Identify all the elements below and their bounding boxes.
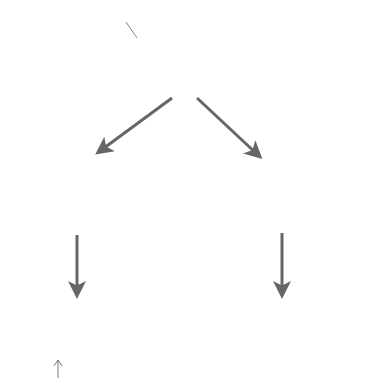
replication-arrow-right xyxy=(197,98,258,155)
label-pointer-line xyxy=(126,22,137,38)
replication-arrow-left xyxy=(100,98,172,151)
dna-methylation-diagram xyxy=(0,0,369,385)
